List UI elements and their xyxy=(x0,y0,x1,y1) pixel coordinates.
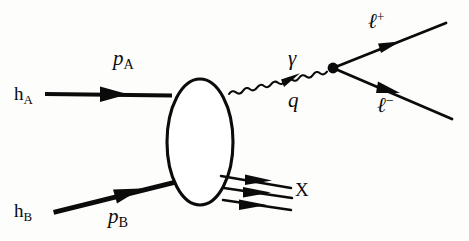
label-remnant-base: X xyxy=(295,179,309,200)
label-photon-base: γ xyxy=(288,46,296,70)
remnant-lines xyxy=(221,175,292,211)
label-hadron-a-base: h xyxy=(14,83,24,104)
label-hadron-a: hA xyxy=(14,84,33,107)
hadronic-blob xyxy=(167,79,233,205)
feynman-diagram xyxy=(0,0,469,241)
figure-canvas: hA pA hB pB γ q ℓ+ ℓ− X xyxy=(0,0,469,241)
label-momentum-b-sub: B xyxy=(119,214,129,230)
label-lepton-plus: ℓ+ xyxy=(368,10,385,32)
photon-propagator xyxy=(229,72,327,94)
arrowhead-incoming-b xyxy=(113,189,142,204)
label-momentum-a: pA xyxy=(113,48,134,71)
arrowhead-remnant-2 xyxy=(243,187,271,198)
label-momentum-b-base: p xyxy=(108,204,119,228)
label-lepton-plus-sup: + xyxy=(377,9,385,24)
arrowhead-incoming-a xyxy=(100,87,128,103)
label-hadron-b: hB xyxy=(14,201,32,224)
label-momentum-b: pB xyxy=(108,206,128,229)
label-lepton-minus: ℓ− xyxy=(377,94,394,116)
arrowhead-remnant-3 xyxy=(239,200,267,211)
label-lepton-minus-base: ℓ xyxy=(377,93,386,117)
label-lepton-minus-sup: − xyxy=(386,93,394,108)
arrowhead-lepton-plus xyxy=(378,42,400,54)
incoming-hadron-a-line xyxy=(45,87,172,103)
label-hadron-a-sub: A xyxy=(24,92,33,107)
label-momentum-a-base: p xyxy=(113,46,124,70)
outgoing-lepton-plus-line xyxy=(333,23,446,68)
label-virtuality-base: q xyxy=(288,88,299,112)
label-lepton-plus-base: ℓ xyxy=(368,9,377,33)
label-virtuality: q xyxy=(288,90,299,111)
label-remnant: X xyxy=(295,180,309,199)
arrowhead-lepton-minus xyxy=(376,82,400,94)
label-hadron-b-base: h xyxy=(14,200,24,221)
label-hadron-b-sub: B xyxy=(24,209,33,224)
label-photon: γ xyxy=(288,48,296,69)
label-momentum-a-sub: A xyxy=(124,56,134,72)
